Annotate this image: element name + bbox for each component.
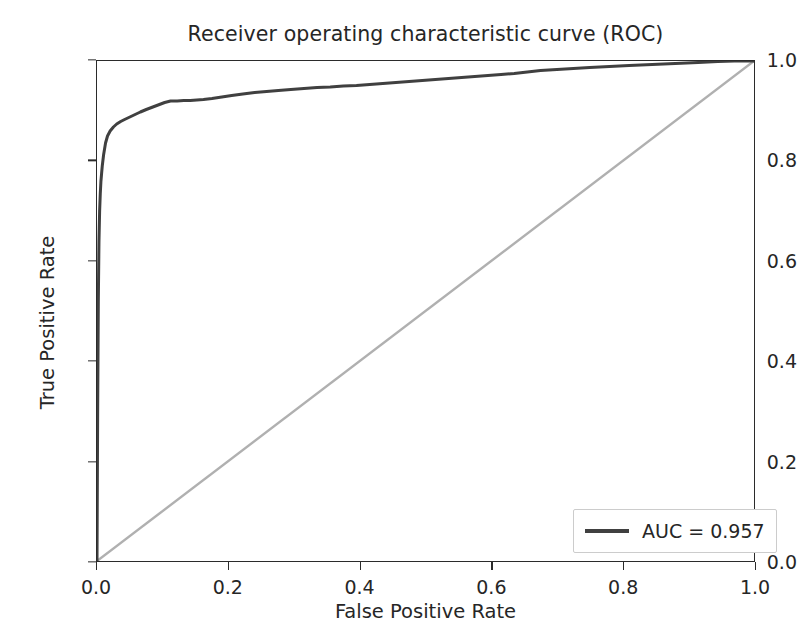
y-tick-label: 1.0 [739,49,797,71]
plot-svg [97,61,754,561]
y-tick-mark [88,160,96,161]
legend: AUC = 0.957 [573,509,777,553]
x-axis-label: False Positive Rate [96,600,755,623]
legend-label-auc: AUC = 0.957 [642,520,765,542]
x-tick-label: 0.0 [61,576,131,598]
x-tick-mark [623,562,624,570]
y-tick-mark [88,561,96,562]
x-tick-mark [491,562,492,570]
y-tick-mark [88,461,96,462]
x-tick-mark [755,562,756,570]
roc-chart-figure: Receiver operating characteristic curve … [0,0,797,643]
chart-title: Receiver operating characteristic curve … [96,22,755,46]
y-tick-mark [88,260,96,261]
x-tick-label: 0.4 [325,576,395,598]
x-tick-mark [228,562,229,570]
x-tick-label: 0.2 [193,576,263,598]
y-tick-label: 0.4 [739,350,797,372]
chance-diagonal-line [97,61,754,561]
plot-area [96,60,755,562]
y-tick-label: 0.6 [739,250,797,272]
y-tick-mark [88,59,96,60]
x-tick-mark [360,562,361,570]
y-tick-label: 0.0 [739,551,797,573]
legend-color-swatch [585,529,629,533]
y-tick-mark [88,361,96,362]
x-tick-label: 0.6 [456,576,526,598]
x-tick-label: 0.8 [588,576,658,598]
x-tick-mark [96,562,97,570]
y-tick-label: 0.8 [739,149,797,171]
y-tick-label: 0.2 [739,451,797,473]
y-axis-label: True Positive Rate [36,193,59,453]
x-tick-label: 1.0 [720,576,790,598]
